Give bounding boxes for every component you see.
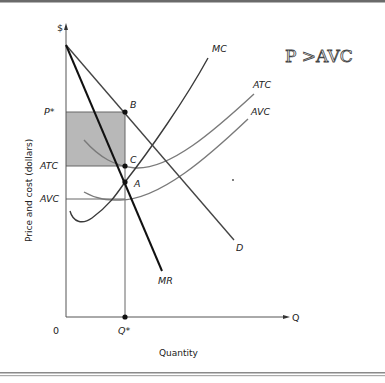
y-axis-symbol: $ bbox=[57, 22, 63, 33]
pstar-label: P* bbox=[44, 106, 55, 117]
stray-mark bbox=[232, 179, 234, 181]
avc-level-label: AVC bbox=[39, 193, 60, 204]
bottom-rule-1 bbox=[0, 372, 385, 374]
point-b-label: B bbox=[130, 99, 137, 110]
mr-label: MR bbox=[158, 275, 173, 286]
handwritten-note: P >AVC bbox=[285, 46, 353, 66]
y-axis-arrow-icon bbox=[64, 23, 68, 30]
y-axis-title: Price and cost (dollars) bbox=[24, 139, 34, 242]
avc-curve-label: AVC bbox=[250, 106, 271, 117]
point-qstar bbox=[122, 314, 127, 319]
bottom-rule-2 bbox=[0, 375, 385, 376]
point-c-label: C bbox=[130, 154, 137, 165]
mc-label: MC bbox=[212, 43, 227, 54]
x-axis-symbol: Q bbox=[292, 312, 299, 323]
atc-curve-label: ATC bbox=[252, 79, 272, 90]
atc-level-label: ATC bbox=[39, 160, 59, 171]
qstar-label: Q* bbox=[118, 325, 130, 336]
origin-label: 0 bbox=[53, 325, 59, 336]
monopoly-profit-chart: $ P* ATC AVC MC ATC AVC D MR B C A 0 Q* … bbox=[0, 0, 385, 383]
demand-label: D bbox=[236, 242, 243, 253]
point-b bbox=[122, 109, 127, 114]
top-rule bbox=[0, 0, 385, 3]
profit-area bbox=[66, 112, 125, 166]
x-axis-title: Quantity bbox=[159, 348, 199, 358]
point-a bbox=[122, 179, 127, 184]
x-axis-arrow-icon bbox=[283, 315, 290, 319]
point-a-label: A bbox=[133, 178, 141, 189]
point-c bbox=[122, 163, 127, 168]
